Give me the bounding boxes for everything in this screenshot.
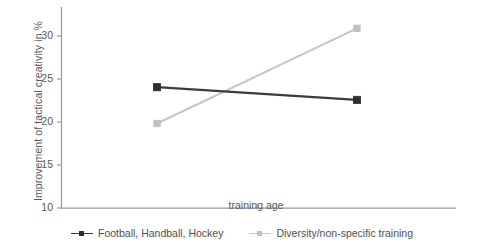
- legend-label-specific: Football, Handball, Hockey: [98, 227, 223, 239]
- legend-swatch-diversity-icon: [249, 229, 271, 238]
- series-diversity-marker-2: [354, 25, 360, 31]
- series-diversity-marker-1: [154, 120, 160, 126]
- series-specific-line: [157, 87, 357, 100]
- series-specific-marker-1: [153, 84, 160, 91]
- series-football-handball-hockey: [153, 84, 360, 104]
- series-specific-marker-2: [353, 96, 360, 103]
- chart-canvas: [0, 0, 484, 249]
- x-axis-title: training age: [196, 199, 316, 211]
- legend-swatch-specific-icon: [71, 229, 93, 238]
- y-axis-ticks: [57, 36, 62, 208]
- legend-item-football-handball-hockey[interactable]: Football, Handball, Hockey: [71, 227, 223, 239]
- legend-label-diversity: Diversity/non-specific training: [276, 227, 413, 239]
- line-chart: 30 25 20 15 10 Improvement of tactical c…: [0, 0, 484, 249]
- series-diversity-line: [157, 28, 357, 123]
- chart-legend: Football, Handball, Hockey Diversity/non…: [0, 227, 484, 239]
- legend-item-diversity-non-specific-training[interactable]: Diversity/non-specific training: [249, 227, 413, 239]
- y-axis-title: Improvement of tactical creativity in %: [32, 11, 44, 211]
- series-diversity-non-specific-training: [154, 25, 360, 127]
